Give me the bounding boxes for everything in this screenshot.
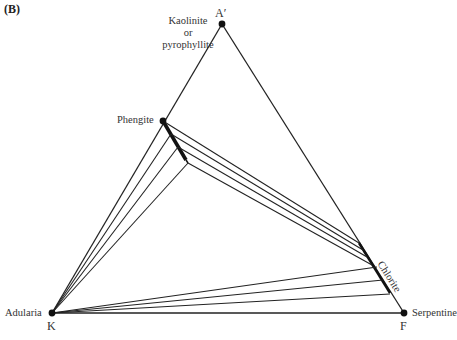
edge-k-a — [52, 24, 222, 313]
phengite-label: Phengite — [117, 114, 154, 126]
f-point — [401, 310, 408, 317]
serpentine-label: Serpentine — [412, 307, 457, 319]
ternary-diagram — [0, 0, 457, 340]
k-chlorite-tielines — [52, 267, 390, 313]
kaolinite-label: Kaolinite or pyrophyllite — [156, 15, 220, 51]
k-label: K — [47, 320, 56, 332]
k-point — [49, 310, 56, 317]
f-label: F — [400, 320, 407, 332]
k-phengite-tielines — [52, 134, 188, 313]
phengite-chlorite-tielines — [163, 121, 372, 265]
adularia-label: Adularia — [5, 307, 42, 319]
phengite-extension — [186, 160, 188, 163]
phengite-point — [160, 118, 167, 125]
